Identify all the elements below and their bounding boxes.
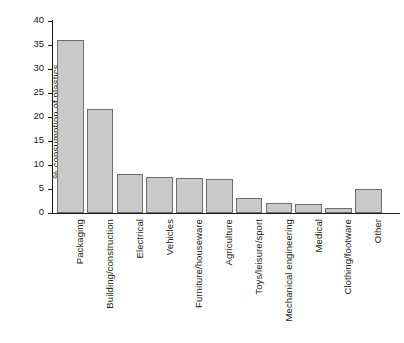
x-tick-label: Other	[372, 219, 383, 243]
y-tick-label: 40	[33, 14, 44, 25]
bar	[325, 208, 352, 213]
y-tick-label: 35	[33, 38, 44, 49]
bar	[206, 179, 233, 213]
x-tick-label: Electrical	[134, 219, 145, 259]
plot-area	[52, 21, 400, 213]
x-tick-label: Building/construction	[104, 219, 115, 309]
y-tick-mark	[48, 213, 52, 214]
bar	[236, 198, 263, 213]
x-tick-label: Medical	[313, 219, 324, 252]
y-tick-label: 25	[33, 86, 44, 97]
x-tick-label: Agriculture	[223, 219, 234, 265]
y-tick-label: 5	[39, 182, 44, 193]
bar	[87, 109, 114, 213]
x-tick-label: Vehicles	[164, 219, 175, 255]
y-tick-label: 15	[33, 134, 44, 145]
x-tick-label: Clothing/footware	[342, 219, 353, 295]
bar	[355, 189, 382, 213]
bar	[266, 203, 293, 213]
x-tick-label: Toys/leisure/sport	[253, 219, 264, 295]
bar	[176, 178, 203, 213]
y-tick-label: 20	[33, 110, 44, 121]
bar-chart: % consumption of plastics 05101520253035…	[0, 0, 404, 343]
x-tick-label: Mechanical engineering	[283, 219, 294, 321]
x-axis-line	[52, 213, 400, 214]
bar	[295, 204, 322, 213]
x-tick-label: Furniture/houseware	[193, 219, 204, 308]
y-tick-label: 30	[33, 62, 44, 73]
bar	[57, 40, 84, 213]
y-tick-label: 10	[33, 158, 44, 169]
bar	[117, 174, 144, 213]
x-tick-label: Packaging	[74, 219, 85, 264]
y-tick-label: 0	[39, 206, 44, 217]
bar	[146, 177, 173, 213]
